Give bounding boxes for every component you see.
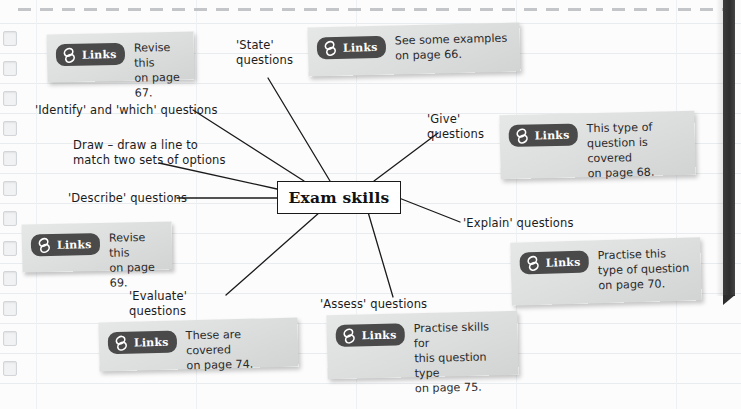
branch-label-evaluate: 'Evaluate' questions bbox=[129, 289, 187, 319]
links-badge: Links bbox=[509, 123, 578, 147]
links-card-page-68[interactable]: Links This type of question is covered o… bbox=[499, 111, 695, 179]
binding-hole bbox=[3, 211, 17, 226]
links-card-body: Revise this on page 67. bbox=[134, 40, 184, 101]
links-badge: Links bbox=[56, 43, 125, 66]
chain-link-icon bbox=[112, 333, 131, 352]
binding-hole bbox=[3, 271, 17, 286]
links-card-page-70[interactable]: Links Practise this type of question on … bbox=[510, 237, 702, 305]
binding-hole bbox=[3, 61, 17, 76]
links-badge: Links bbox=[519, 250, 589, 274]
connector-assess bbox=[368, 212, 393, 297]
binding-hole bbox=[3, 181, 17, 196]
paper-vrule bbox=[36, 0, 37, 409]
chain-link-icon bbox=[35, 235, 54, 254]
branch-label-identify: 'Identify' and 'which' questions bbox=[35, 103, 218, 118]
connector-evaluate bbox=[226, 212, 320, 295]
links-badge-label: Links bbox=[82, 48, 117, 62]
branch-label-give: 'Give' questions bbox=[427, 112, 484, 142]
links-badge-label: Links bbox=[546, 255, 581, 269]
links-card-body: These are covered on page 74. bbox=[186, 326, 288, 373]
binding-hole bbox=[3, 361, 17, 376]
binding-hole bbox=[3, 121, 17, 136]
centre-node: Exam skills bbox=[277, 181, 401, 214]
branch-label-draw: Draw – draw a line to match two sets of … bbox=[73, 138, 226, 168]
binding-hole bbox=[3, 91, 17, 106]
binding-hole bbox=[3, 151, 17, 166]
links-badge-label: Links bbox=[57, 238, 92, 252]
branch-label-explain: 'Explain' questions bbox=[463, 216, 574, 231]
links-card-body: Practise this type of question on page 7… bbox=[597, 246, 689, 294]
links-card-page-66[interactable]: Links See some examples on page 66. bbox=[307, 22, 520, 76]
links-card-page-74[interactable]: Links These are covered on page 74. bbox=[98, 318, 298, 372]
links-badge: Links bbox=[108, 331, 178, 355]
links-badge-label: Links bbox=[535, 128, 570, 142]
branch-label-state: 'State' questions bbox=[236, 38, 293, 68]
links-card-body: Practise skills for this question type o… bbox=[413, 319, 508, 396]
branch-label-assess: 'Assess' questions bbox=[320, 297, 427, 312]
links-badge: Links bbox=[31, 233, 100, 256]
chain-link-icon bbox=[321, 38, 340, 57]
connector-state bbox=[268, 78, 330, 181]
chain-link-icon bbox=[523, 253, 543, 273]
binding-hole bbox=[3, 241, 17, 256]
paper-rule bbox=[0, 383, 741, 384]
links-card-page-75[interactable]: Links Practise skills for this question … bbox=[326, 311, 518, 379]
binding-hole bbox=[3, 31, 17, 46]
binding-hole bbox=[3, 331, 17, 346]
links-badge: Links bbox=[317, 36, 387, 60]
connector-explain bbox=[399, 198, 460, 222]
paper-rule bbox=[0, 23, 741, 24]
branch-label-describe: 'Describe' questions bbox=[68, 191, 187, 206]
links-badge: Links bbox=[336, 323, 405, 347]
notebook-page: Exam skills 'State' questions 'Identify'… bbox=[0, 0, 741, 409]
links-card-body: See some examples on page 66. bbox=[395, 31, 508, 64]
links-card-body: This type of question is covered on page… bbox=[586, 119, 684, 181]
links-badge-label: Links bbox=[362, 328, 397, 342]
chain-link-icon bbox=[340, 326, 359, 345]
spiral-binding bbox=[0, 0, 20, 409]
chain-link-icon bbox=[60, 45, 79, 64]
links-badge-label: Links bbox=[134, 335, 169, 349]
paper-vrule bbox=[676, 0, 677, 409]
page-title: Exam skills bbox=[289, 188, 390, 207]
links-badge-label: Links bbox=[343, 40, 378, 54]
page-edge-shadow bbox=[716, 0, 723, 296]
binding-hole bbox=[3, 301, 17, 316]
links-card-body: Revise this on page 69. bbox=[109, 230, 162, 291]
chain-link-icon bbox=[513, 126, 532, 145]
book-spine bbox=[723, 0, 735, 296]
links-card-page-67[interactable]: Links Revise this on page 67. bbox=[47, 32, 195, 83]
paper-rule bbox=[0, 83, 741, 84]
links-card-page-69[interactable]: Links Revise this on page 69. bbox=[22, 221, 173, 272]
perforation-strip bbox=[18, 8, 733, 11]
